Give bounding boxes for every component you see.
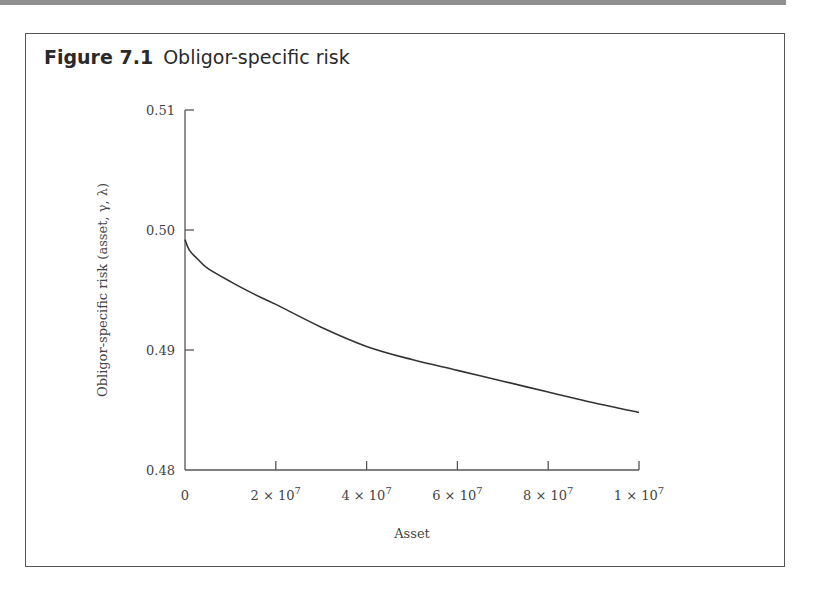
y-tick-label: 0.50: [146, 223, 175, 238]
y-axis-label: Obligor-specific risk (asset, γ, λ): [95, 183, 110, 397]
x-tick-label: 8 × 107: [523, 485, 573, 503]
x-tick-label: 0: [181, 488, 189, 503]
x-tick-label: 2 × 107: [251, 485, 301, 503]
x-tick-label: 4 × 107: [341, 485, 391, 503]
x-tick-label: 6 × 107: [432, 485, 482, 503]
x-tick-label: 1 × 107: [614, 485, 664, 503]
chart-axes: [185, 110, 639, 470]
y-tick-label: 0.48: [146, 463, 175, 478]
line-chart: 0.480.490.500.5102 × 1074 × 1076 × 1078 …: [0, 0, 814, 605]
y-tick-label: 0.49: [146, 343, 175, 358]
x-axis-label: Asset: [393, 526, 430, 541]
axis-ticks: 0.480.490.500.5102 × 1074 × 1076 × 1078 …: [146, 103, 664, 503]
risk-curve: [185, 240, 639, 413]
y-tick-label: 0.51: [146, 103, 175, 118]
